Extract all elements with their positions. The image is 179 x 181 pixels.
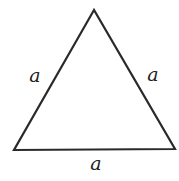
triangle-diagram: a a a (0, 0, 179, 181)
bottom-side-label: a (90, 152, 101, 174)
left-side-label: a (29, 64, 40, 86)
triangle-figure: a a a (0, 0, 179, 181)
right-side-label: a (147, 63, 158, 85)
